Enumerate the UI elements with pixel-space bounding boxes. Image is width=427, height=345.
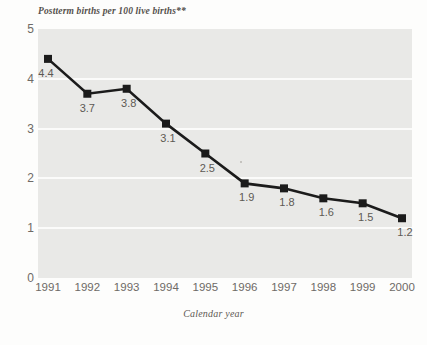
data-point-label: 2.5 [200,162,215,174]
data-point-label: 1.6 [319,206,334,218]
data-point-label: 3.1 [160,132,175,144]
y-axis-title: Postterm births per 100 live births** [38,6,186,16]
data-point-label: 3.8 [121,97,136,109]
x-axis-tick-labels: 1991199219931994199519961997199819992000 [38,281,412,299]
y-axis-tick-label: 4 [8,72,34,86]
chart-figure: Postterm births per 100 live births** 01… [0,0,427,345]
y-axis-tick-label: 0 [8,271,34,285]
data-point-label: 4.4 [38,67,53,79]
y-axis-tick-labels: 012345 [0,29,34,278]
x-axis-tick-label: 1996 [232,281,258,293]
x-axis-tick-label: 1994 [153,281,179,293]
data-point-labels: 4.43.73.83.12.51.91.81.61.51.2 [38,29,412,278]
data-point-label: 1.8 [279,196,294,208]
data-point-label: 1.2 [397,226,412,238]
scan-artifact-speck [240,161,242,163]
x-axis-tick-label: 1993 [114,281,140,293]
x-axis-tick-label: 1998 [311,281,337,293]
x-axis-tick-label: 1999 [350,281,376,293]
data-point-label: 1.5 [358,211,373,223]
data-point-label: 3.7 [80,102,95,114]
data-point-label: 1.9 [239,191,254,203]
y-axis-tick-label: 2 [8,171,34,185]
x-axis-tick-label: 2000 [389,281,415,293]
y-axis-tick-label: 3 [8,122,34,136]
x-axis-tick-label: 1997 [271,281,297,293]
x-axis-tick-label: 1992 [75,281,101,293]
y-axis-tick-label: 1 [8,221,34,235]
x-axis-tick-label: 1995 [193,281,219,293]
y-axis-tick-label: 5 [8,22,34,36]
x-axis-title: Calendar year [0,308,427,319]
x-axis-tick-label: 1991 [35,281,61,293]
